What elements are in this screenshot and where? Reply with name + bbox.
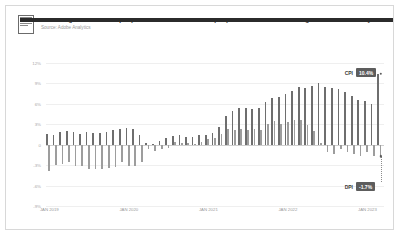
bar-group	[298, 63, 305, 206]
chart-header: Adobe Digital Price Index (DPI) vs. Cons…	[18, 15, 391, 34]
bar-dpi	[360, 145, 362, 156]
bar-group	[59, 63, 66, 206]
bar-group	[165, 63, 172, 206]
bar-dpi	[48, 145, 50, 172]
y-axis-tick-label: -6%	[33, 183, 41, 188]
bar-dpi	[300, 120, 302, 145]
bar-group	[99, 63, 106, 206]
bar-cpi	[126, 128, 128, 145]
bar-dpi	[327, 145, 329, 152]
bar-group	[66, 63, 73, 206]
bar-group	[79, 63, 86, 206]
bar-group	[132, 63, 139, 206]
bar-cpi	[338, 89, 340, 145]
bar-dpi	[115, 145, 117, 167]
bar-dpi	[221, 134, 223, 145]
callout-value-badge: 10.4%	[356, 68, 376, 77]
callout-series-name: CPI	[345, 70, 353, 76]
bar-dpi	[313, 131, 315, 145]
bar-group	[145, 63, 152, 206]
bar-dpi	[121, 145, 123, 163]
bar-group	[205, 63, 212, 206]
callout-leader-line	[381, 156, 382, 182]
bar-cpi	[112, 130, 114, 144]
x-axis-tick-label: JAN 2021	[199, 207, 218, 212]
bar-cpi	[371, 104, 373, 145]
bar-dpi	[307, 125, 309, 145]
bar-dpi	[254, 129, 256, 145]
bar-cpi	[59, 132, 61, 145]
bar-dpi	[214, 138, 216, 145]
bar-dpi	[347, 145, 349, 152]
bar-cpi	[92, 133, 94, 145]
bar-cpi	[331, 88, 333, 145]
report-document-icon	[18, 15, 34, 34]
bar-dpi	[320, 143, 322, 145]
bar-cpi	[53, 135, 55, 145]
x-axis: JAN 2019JAN 2020JAN 2021JAN 2022JAN 2023	[46, 207, 384, 219]
bar-cpi	[357, 100, 359, 144]
bar-dpi	[333, 145, 335, 154]
bar-group	[126, 63, 133, 206]
bar-cpi	[66, 131, 68, 145]
bar-dpi	[174, 142, 176, 145]
bar-group	[92, 63, 99, 206]
bar-dpi	[366, 145, 368, 152]
bar-group	[73, 63, 80, 206]
bar-cpi	[79, 134, 81, 145]
bar-group	[179, 63, 186, 206]
bar-group	[258, 63, 265, 206]
bar-dpi	[240, 129, 242, 145]
bar-group	[271, 63, 278, 206]
bar-dpi	[168, 145, 170, 148]
y-axis-tick-label: -3%	[33, 163, 41, 168]
callout-cpi: CPI10.4%	[345, 68, 377, 77]
bar-dpi	[141, 145, 143, 163]
bar-dpi	[75, 145, 77, 166]
bar-cpi	[73, 132, 75, 144]
y-axis-tick-label: 0	[39, 142, 41, 147]
callout-dpi: DPI-1.7%	[345, 182, 375, 191]
bar-group	[331, 63, 338, 206]
bar-group	[185, 63, 192, 206]
bar-dpi	[187, 143, 189, 145]
x-axis-tick-label: JAN 2023	[358, 207, 377, 212]
bar-cpi	[377, 74, 379, 145]
bar-group	[238, 63, 245, 206]
bar-group	[152, 63, 159, 206]
bar-dpi	[287, 122, 289, 145]
bar-group	[291, 63, 298, 206]
x-axis-tick-label: JAN 2022	[278, 207, 297, 212]
callout-series-name: DPI	[345, 184, 353, 190]
bar-group	[86, 63, 93, 206]
bar-cpi	[364, 101, 366, 145]
bar-group	[212, 63, 219, 206]
bar-cpi	[99, 133, 101, 145]
x-axis-tick-label: JAN 2019	[40, 207, 59, 212]
bar-dpi	[134, 145, 136, 167]
bar-dpi	[267, 124, 269, 144]
bar-dpi	[161, 145, 163, 149]
bar-cpi	[86, 132, 88, 144]
bar-cpi	[46, 134, 48, 145]
bar-dpi	[294, 120, 296, 145]
bar-cpi	[324, 87, 326, 145]
bar-cpi	[106, 132, 108, 144]
bar-dpi	[207, 139, 209, 145]
bar-group	[192, 63, 199, 206]
bar-dpi	[68, 145, 70, 163]
bar-dpi	[194, 144, 196, 145]
bar-dpi	[81, 145, 83, 167]
bar-group	[232, 63, 239, 206]
bar-group	[377, 63, 384, 206]
bar-dpi	[148, 145, 150, 149]
bar-group	[46, 63, 53, 206]
bar-group	[53, 63, 60, 206]
bar-group	[159, 63, 166, 206]
bar-group	[311, 63, 318, 206]
bar-dpi	[101, 145, 103, 169]
bar-dpi	[128, 145, 130, 166]
bar-group	[198, 63, 205, 206]
bar-group	[139, 63, 146, 206]
bar-dpi	[88, 145, 90, 169]
